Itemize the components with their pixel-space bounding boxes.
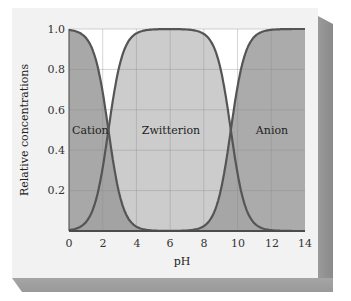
x-tick: 2 xyxy=(100,237,107,250)
y-tick: 1.0 xyxy=(48,23,66,36)
x-tick: 6 xyxy=(167,237,174,250)
x-tick-labels: 0 2 4 6 8 10 12 14 xyxy=(66,237,313,250)
y-tick: 0.2 xyxy=(48,184,66,197)
x-tick: 0 xyxy=(66,237,73,250)
zwitterion-label: Zwitterion xyxy=(142,124,200,137)
cation-label: Cation xyxy=(72,124,109,137)
y-tick: 0.6 xyxy=(48,104,66,117)
chart: 0 2 4 6 8 10 12 14 0.2 0.4 0.6 0.8 1.0 C… xyxy=(0,0,351,301)
x-tick: 8 xyxy=(201,237,208,250)
y-tick: 0.8 xyxy=(48,63,66,76)
y-tick-labels: 0.2 0.4 0.6 0.8 1.0 xyxy=(48,23,66,197)
x-tick: 10 xyxy=(231,237,245,250)
x-tick: 4 xyxy=(134,237,141,250)
y-axis-label: Relative concentrations xyxy=(18,64,31,197)
x-tick: 14 xyxy=(298,237,312,250)
y-tick: 0.4 xyxy=(48,144,66,157)
x-axis-label: pH xyxy=(174,255,191,268)
x-tick: 12 xyxy=(265,237,279,250)
anion-label: Anion xyxy=(255,124,288,137)
